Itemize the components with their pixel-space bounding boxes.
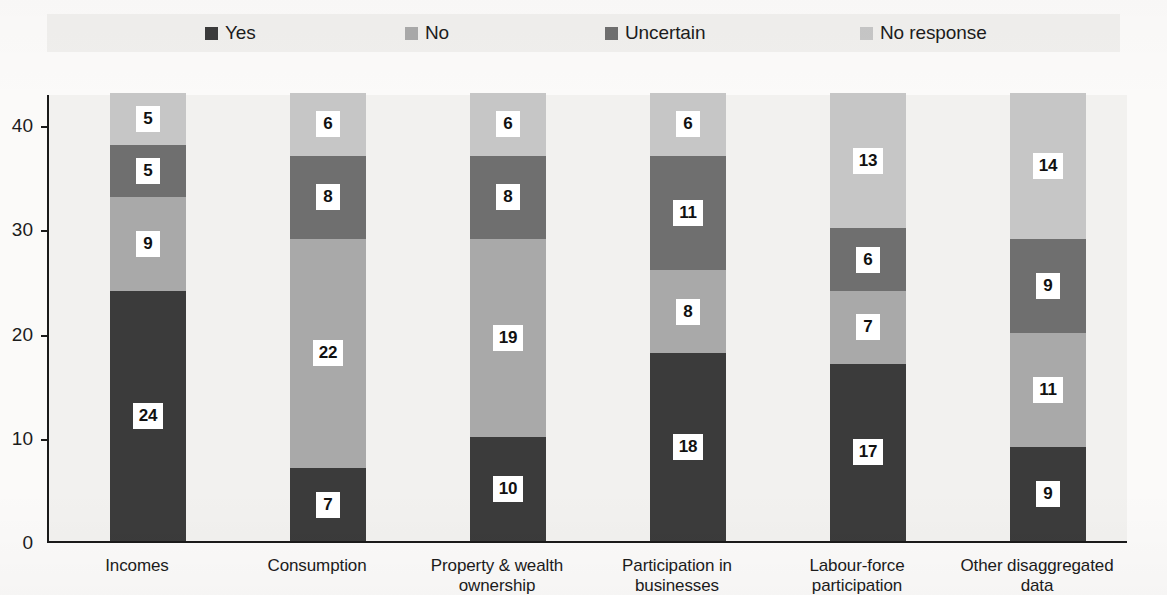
- x-axis-category-line: participation: [759, 576, 955, 595]
- bar-segment-value-label: 7: [316, 492, 340, 518]
- bar-segment[interactable]: 9: [110, 197, 186, 291]
- bar-segment[interactable]: 8: [650, 270, 726, 353]
- x-axis-category-line: Labour-force: [759, 556, 955, 576]
- y-axis-tick-label: 10: [0, 428, 33, 450]
- chart-legend: Yes No Uncertain No response: [47, 14, 1120, 52]
- bar-segment[interactable]: 7: [290, 468, 366, 541]
- bar-segment[interactable]: 7: [830, 291, 906, 364]
- bar-segment-value-label: 6: [316, 111, 340, 137]
- bar-segment-value-label: 5: [136, 106, 160, 132]
- x-axis-category-label: Property & wealthownership: [399, 556, 595, 595]
- bar-segment[interactable]: 9: [1010, 239, 1086, 333]
- bar-segment-value-label: 17: [853, 439, 884, 465]
- bar-segment-value-label: 8: [316, 184, 340, 210]
- bar-segment-value-label: 8: [676, 299, 700, 325]
- x-axis-category-line: Incomes: [39, 556, 235, 576]
- bar-segment[interactable]: 10: [470, 437, 546, 541]
- bar-stack[interactable]: 681910: [470, 93, 546, 541]
- y-axis-tick-label: 0: [0, 532, 33, 554]
- x-axis-category-label: Incomes: [39, 556, 235, 576]
- bar-segment[interactable]: 8: [470, 156, 546, 239]
- bar-segment[interactable]: 6: [830, 228, 906, 291]
- y-axis-tick-mark: [41, 126, 49, 128]
- bar-segment-value-label: 8: [496, 184, 520, 210]
- y-axis-tick-label: 40: [0, 115, 33, 137]
- legend-item-no[interactable]: No: [405, 22, 449, 44]
- x-axis-category-label: Labour-forceparticipation: [759, 556, 955, 595]
- y-axis-tick-label: 20: [0, 324, 33, 346]
- bar-segment-value-label: 6: [676, 111, 700, 137]
- legend-label-no-response: No response: [880, 22, 987, 44]
- x-axis-category-line: Consumption: [219, 556, 415, 576]
- y-axis-tick-mark: [41, 439, 49, 441]
- x-axis-category-line: Participation in businesses: [579, 556, 775, 595]
- legend-swatch-yes: [205, 27, 218, 40]
- bar-segment-value-label: 11: [1033, 377, 1063, 403]
- bar-segment[interactable]: 17: [830, 364, 906, 541]
- x-axis-category-line: Property & wealth: [399, 556, 595, 576]
- x-axis-category-label: Participation in businesses: [579, 556, 775, 595]
- bar-stack[interactable]: 136717: [830, 93, 906, 541]
- bar-segment-value-label: 13: [853, 148, 884, 174]
- x-axis-category-line: ownership: [399, 576, 595, 595]
- bar-segment[interactable]: 13: [830, 93, 906, 228]
- bar-segment-value-label: 6: [496, 111, 520, 137]
- legend-swatch-no: [405, 27, 418, 40]
- stacked-bar-chart: Yes No Uncertain No response 010203040 5…: [0, 0, 1167, 595]
- y-axis-tick-label: 30: [0, 219, 33, 241]
- x-axis-category-label: Other disaggregateddata: [939, 556, 1135, 595]
- legend-item-yes[interactable]: Yes: [205, 22, 256, 44]
- bar-segment[interactable]: 18: [650, 353, 726, 541]
- legend-swatch-uncertain: [605, 27, 618, 40]
- bar-segment[interactable]: 6: [290, 93, 366, 156]
- y-axis-tick-mark: [41, 230, 49, 232]
- bar-segment-value-label: 7: [856, 314, 880, 340]
- bar-segment-value-label: 6: [856, 247, 880, 273]
- y-axis-tick-mark: [41, 335, 49, 337]
- legend-label-yes: Yes: [225, 22, 256, 44]
- bar-segment-value-label: 10: [493, 476, 524, 502]
- legend-label-no: No: [425, 22, 449, 44]
- bar-segment-value-label: 9: [1036, 273, 1060, 299]
- bar-segment-value-label: 19: [493, 325, 524, 351]
- bar-segment-value-label: 5: [136, 158, 160, 184]
- bar-segment[interactable]: 19: [470, 239, 546, 437]
- bar-segment-value-label: 14: [1033, 153, 1064, 179]
- x-axis-category-line: data: [939, 576, 1135, 595]
- bar-segment[interactable]: 14: [1010, 93, 1086, 239]
- bar-segment-value-label: 11: [673, 200, 703, 226]
- bar-segment[interactable]: 9: [1010, 447, 1086, 541]
- bar-segment-value-label: 22: [313, 340, 344, 366]
- bar-segment[interactable]: 11: [1010, 333, 1086, 448]
- bar-segment[interactable]: 5: [110, 93, 186, 145]
- bar-segment[interactable]: 8: [290, 156, 366, 239]
- bar-segment[interactable]: 5: [110, 145, 186, 197]
- bar-stack[interactable]: 68227: [290, 93, 366, 541]
- bar-stack[interactable]: 611818: [650, 93, 726, 541]
- bar-segment-value-label: 24: [133, 403, 164, 429]
- legend-item-uncertain[interactable]: Uncertain: [605, 22, 705, 44]
- x-axis-category-line: Other disaggregated: [939, 556, 1135, 576]
- plot-area: 5592468227681910611818136717149119: [47, 95, 1127, 543]
- bar-segment-value-label: 18: [673, 434, 704, 460]
- bar-segment[interactable]: 6: [470, 93, 546, 156]
- legend-swatch-no-response: [860, 27, 873, 40]
- legend-label-uncertain: Uncertain: [625, 22, 705, 44]
- bar-segment[interactable]: 22: [290, 239, 366, 468]
- bar-segment[interactable]: 6: [650, 93, 726, 156]
- bar-segment[interactable]: 11: [650, 156, 726, 271]
- bar-segment-value-label: 9: [136, 231, 160, 257]
- legend-item-no-response[interactable]: No response: [860, 22, 987, 44]
- bar-segment-value-label: 9: [1036, 481, 1060, 507]
- bar-stack[interactable]: 55924: [110, 93, 186, 541]
- bar-stack[interactable]: 149119: [1010, 93, 1086, 541]
- x-axis-category-label: Consumption: [219, 556, 415, 576]
- bar-segment[interactable]: 24: [110, 291, 186, 541]
